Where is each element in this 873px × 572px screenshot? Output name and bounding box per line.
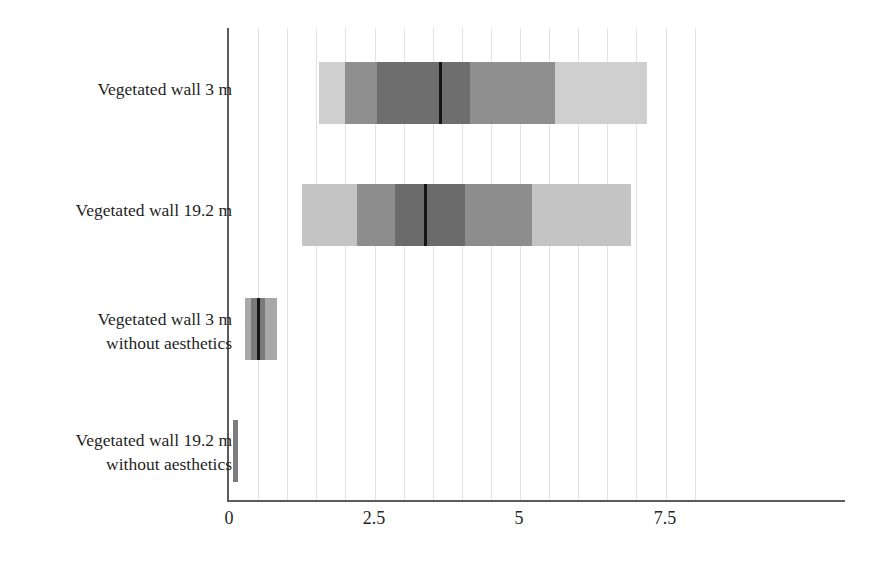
- gridline: [316, 28, 317, 500]
- bar-segment: [302, 184, 357, 246]
- bar-segment: [345, 62, 377, 124]
- bar-segment: [377, 62, 440, 124]
- gridline: [287, 28, 288, 500]
- bar-segment: [465, 184, 494, 246]
- gridline: [695, 28, 696, 500]
- bar-range-track: [245, 298, 277, 360]
- x-tick-label-2: 5: [515, 508, 524, 529]
- x-axis-line: [227, 500, 845, 502]
- bar-segment: [523, 62, 555, 124]
- bar-segment: [395, 184, 425, 246]
- bar-range-track: [302, 184, 631, 246]
- bar-segment: [357, 184, 395, 246]
- bar-segment: [494, 184, 532, 246]
- range-bar-chart: Vegetated wall 3 m Vegetated wall 19.2 m…: [0, 0, 873, 572]
- bar-range-track: [319, 62, 647, 124]
- median-marker: [439, 62, 442, 124]
- category-label-3: Vegetated wall 19.2 m without aesthetics: [76, 428, 232, 476]
- category-label-0: Vegetated wall 3 m: [97, 77, 232, 101]
- bar-segment: [233, 420, 238, 482]
- bar-segment: [470, 62, 522, 124]
- category-label-2: Vegetated wall 3 m without aesthetics: [97, 307, 232, 355]
- bar-segment: [440, 62, 470, 124]
- bar-segment: [555, 62, 648, 124]
- bar-range-track: [233, 420, 238, 482]
- bar-segment: [425, 184, 465, 246]
- bar-segment: [532, 184, 631, 246]
- category-label-1: Vegetated wall 19.2 m: [76, 198, 232, 222]
- bar-segment: [319, 62, 345, 124]
- median-marker: [257, 298, 260, 360]
- median-marker: [424, 184, 427, 246]
- x-tick-label-0: 0: [225, 508, 234, 529]
- gridline: [666, 28, 667, 500]
- gridline: [258, 28, 259, 500]
- bar-segment: [265, 298, 277, 360]
- x-tick-label-1: 2.5: [363, 508, 386, 529]
- x-tick-label-3: 7.5: [654, 508, 677, 529]
